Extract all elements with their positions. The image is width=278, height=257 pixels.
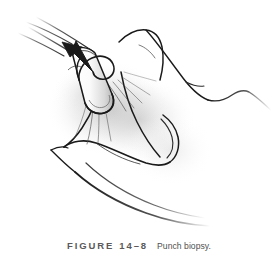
punch-biopsy-illustration: [0, 0, 278, 232]
figure-caption-number: 14–8: [119, 240, 148, 251]
figure-illustration: [0, 0, 278, 232]
figure-caption-label: FIGURE: [67, 240, 114, 251]
figure-caption-text: Punch biopsy.: [157, 241, 211, 251]
figure-page: FIGURE 14–8 Punch biopsy.: [0, 0, 278, 257]
figure-caption: FIGURE 14–8 Punch biopsy.: [0, 234, 278, 257]
